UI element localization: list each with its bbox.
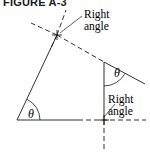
theta-label-left: θ <box>28 108 34 120</box>
figure-container: FIGURE A-3 <box>0 0 150 160</box>
triangle-left-edge <box>17 35 57 120</box>
slant-solid-ray <box>104 62 145 84</box>
theta-label-right: θ <box>114 67 120 79</box>
hypotenuse-dashed <box>57 35 104 62</box>
right-angle-label-top-line2: angle <box>84 20 110 32</box>
right-angle-label-top-line1: Right <box>84 8 110 20</box>
right-angle-label-bottom-line1: Right <box>108 93 134 105</box>
geometry-diagram <box>0 0 150 160</box>
construction-line-upleft <box>31 23 57 35</box>
right-angle-label-top: Right angle <box>84 8 110 32</box>
construction-line-upright <box>57 10 66 35</box>
crossing-marker-top <box>52 30 62 40</box>
right-angle-label-bottom: Right angle <box>108 93 134 117</box>
right-angle-label-bottom-line2: angle <box>108 105 134 117</box>
